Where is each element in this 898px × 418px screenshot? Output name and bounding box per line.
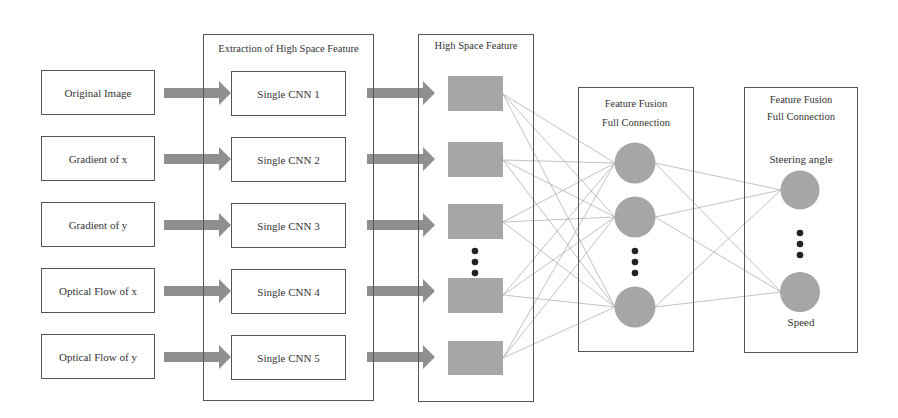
- high-space-feature-group: [418, 34, 534, 402]
- output-speed-label: Speed: [744, 316, 858, 328]
- cnn-label: Single CNN 3: [257, 220, 319, 232]
- input-label: Optical Flow of y: [59, 351, 137, 363]
- input-gradient-x: Gradient of x: [41, 136, 155, 181]
- cnn-1: Single CNN 1: [231, 71, 346, 116]
- cnn-label: Single CNN 5: [257, 352, 319, 364]
- cnn-2: Single CNN 2: [231, 137, 346, 182]
- input-gradient-y: Gradient of y: [41, 202, 155, 247]
- extraction-title: Extraction of High Space Feature: [203, 40, 374, 57]
- cnn-label: Single CNN 4: [257, 286, 319, 298]
- fusion2-title-1: Feature Fusion: [744, 91, 858, 108]
- output-steering-angle-label: Steering angle: [744, 153, 858, 165]
- input-original-image: Original Image: [41, 70, 155, 115]
- fusion1-title-1: Feature Fusion: [578, 95, 694, 112]
- cnn-3: Single CNN 3: [231, 203, 346, 248]
- input-label: Original Image: [65, 87, 132, 99]
- input-label: Optical Flow of x: [59, 285, 137, 297]
- cnn-5: Single CNN 5: [231, 335, 346, 380]
- cnn-label: Single CNN 1: [257, 88, 319, 100]
- input-label: Gradient of x: [69, 153, 128, 165]
- input-optical-flow-y: Optical Flow of y: [41, 334, 155, 379]
- input-optical-flow-x: Optical Flow of x: [41, 268, 155, 313]
- high-space-title: High Space Feature: [418, 37, 534, 54]
- fusion1-title-2: Full Connection: [578, 114, 694, 131]
- fusion2-title-2: Full Connection: [744, 108, 858, 125]
- cnn-label: Single CNN 2: [257, 154, 319, 166]
- input-label: Gradient of y: [69, 219, 128, 231]
- cnn-4: Single CNN 4: [231, 269, 346, 314]
- fusion2-group: [744, 87, 858, 353]
